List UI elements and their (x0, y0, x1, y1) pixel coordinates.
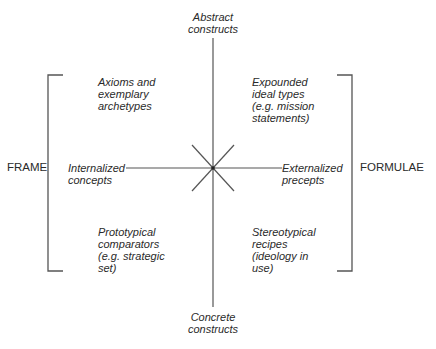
axis-label-right: Externalized precepts (282, 162, 343, 186)
axis-label-top: Abstract constructs (173, 11, 253, 35)
left-bracket (48, 75, 63, 271)
quadrant-top-left: Axioms and exemplary archetypes (98, 76, 155, 112)
center-point (211, 166, 215, 170)
quadrant-top-right: Expounded ideal types (e.g. mission stat… (252, 76, 314, 124)
diagram-lines (0, 0, 436, 349)
quadrant-bottom-right: Stereotypical recipes (ideology in use) (252, 226, 316, 274)
quadrant-bottom-left: Prototypical comparators (e.g. strategic… (98, 226, 165, 274)
axis-label-left: Internalized concepts (68, 162, 125, 186)
axis-label-bottom: Concrete constructs (173, 311, 253, 335)
bracket-label-formulae: FORMULAE (360, 161, 424, 174)
bracket-label-frame: FRAME (7, 161, 47, 174)
